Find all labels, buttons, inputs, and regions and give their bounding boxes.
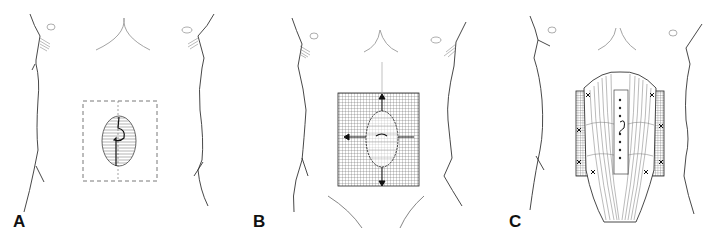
- panel-label-c: C: [509, 213, 521, 230]
- torso-drawing-a: [0, 0, 240, 235]
- panel-label-a: A: [13, 213, 25, 230]
- panel-c: C: [480, 0, 713, 235]
- torso-drawing-c: [480, 0, 713, 235]
- panel-label-b: B: [253, 213, 265, 230]
- panel-b: B: [240, 0, 480, 235]
- panel-a: A: [0, 0, 240, 235]
- surgical-illustration-figure: A: [0, 0, 713, 235]
- torso-drawing-b: [240, 0, 480, 235]
